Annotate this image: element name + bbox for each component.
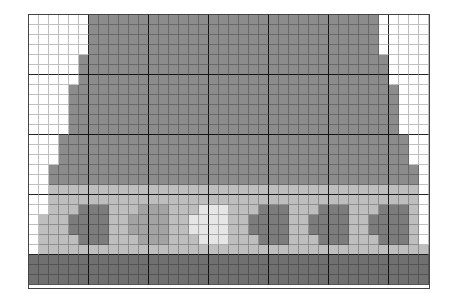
grid-cell	[229, 165, 239, 175]
grid-cell	[399, 135, 409, 145]
grid-cell	[249, 165, 259, 175]
grid-cell	[99, 245, 109, 255]
grid-cell	[79, 45, 89, 55]
grid-cell	[299, 165, 309, 175]
grid-cell	[169, 115, 179, 125]
grid-cell	[399, 35, 409, 45]
grid-cell	[379, 45, 389, 55]
grid-cell	[59, 195, 69, 205]
grid-cell	[289, 165, 299, 175]
grid-cell	[369, 95, 379, 105]
grid-cell	[349, 265, 359, 275]
grid-cell	[209, 235, 219, 245]
grid-cell	[379, 125, 389, 135]
grid-cell	[289, 65, 299, 75]
grid-cell	[169, 15, 179, 25]
grid-cell	[219, 115, 229, 125]
grid-cell	[369, 205, 379, 215]
grid-cell	[239, 45, 249, 55]
grid-cell	[169, 225, 179, 235]
grid-cell	[299, 95, 309, 105]
grid-cell	[99, 235, 109, 245]
grid-cell	[299, 85, 309, 95]
grid-cell	[249, 25, 259, 35]
grid-cell	[169, 125, 179, 135]
grid-cell	[239, 165, 249, 175]
grid-cell	[99, 75, 109, 85]
grid-cell	[399, 225, 409, 235]
grid-cell	[89, 225, 99, 235]
grid-cell	[149, 275, 159, 285]
grid-cell	[189, 105, 199, 115]
grid-cell	[279, 95, 289, 105]
grid-cell	[129, 185, 139, 195]
grid-cell	[379, 255, 389, 265]
grid-cell	[119, 15, 129, 25]
grid-cell	[79, 225, 89, 235]
grid-cell	[309, 115, 319, 125]
grid-cell	[319, 115, 329, 125]
grid-cell	[319, 235, 329, 245]
grid-cell	[349, 145, 359, 155]
grid-cell	[149, 235, 159, 245]
grid-cell	[269, 115, 279, 125]
grid-cell	[129, 195, 139, 205]
grid-cell	[29, 15, 39, 25]
grid-cell	[389, 125, 399, 135]
grid-cell	[369, 175, 379, 185]
grid-cell	[399, 215, 409, 225]
grid-cell	[279, 275, 289, 285]
grid-cell	[209, 145, 219, 155]
grid-cell	[319, 245, 329, 255]
grid-cell	[299, 35, 309, 45]
grid-cell	[149, 215, 159, 225]
grid-cell	[29, 185, 39, 195]
grid-cell	[359, 15, 369, 25]
grid-cell	[329, 195, 339, 205]
grid-cell	[289, 245, 299, 255]
grid-cell	[319, 185, 329, 195]
grid-cell	[39, 185, 49, 195]
grid-cell	[189, 35, 199, 45]
grid-cell	[329, 205, 339, 215]
grid-cell	[309, 225, 319, 235]
grid-cell	[259, 215, 269, 225]
grid-cell	[199, 105, 209, 115]
grid-cell	[419, 105, 429, 115]
grid-cell	[409, 165, 419, 175]
grid-cell	[299, 125, 309, 135]
grid-cell	[99, 25, 109, 35]
grid-cell	[109, 155, 119, 165]
grid-cell	[119, 45, 129, 55]
grid-cell	[399, 175, 409, 185]
grid-cell	[159, 125, 169, 135]
grid-cell	[389, 15, 399, 25]
grid-cell	[159, 205, 169, 215]
grid-cell	[189, 45, 199, 55]
grid-cell	[209, 195, 219, 205]
grid-cell	[149, 15, 159, 25]
grid-cell	[159, 25, 169, 35]
grid-cell	[169, 215, 179, 225]
grid-cell	[399, 15, 409, 25]
grid-cell	[229, 115, 239, 125]
grid-cell	[359, 195, 369, 205]
grid-cell	[409, 275, 419, 285]
grid-cell	[309, 155, 319, 165]
grid-cell	[59, 145, 69, 155]
grid-cell	[279, 115, 289, 125]
grid-cell	[99, 15, 109, 25]
grid-cell	[339, 25, 349, 35]
grid-cell	[299, 15, 309, 25]
grid-cell	[129, 15, 139, 25]
grid-cell	[99, 135, 109, 145]
grid-cell	[229, 75, 239, 85]
grid-cell	[269, 205, 279, 215]
grid-cell	[189, 165, 199, 175]
grid-cell	[379, 205, 389, 215]
grid-cell	[89, 165, 99, 175]
grid-cell	[59, 205, 69, 215]
grid-cell	[219, 255, 229, 265]
grid-cell	[129, 105, 139, 115]
grid-cell	[79, 195, 89, 205]
